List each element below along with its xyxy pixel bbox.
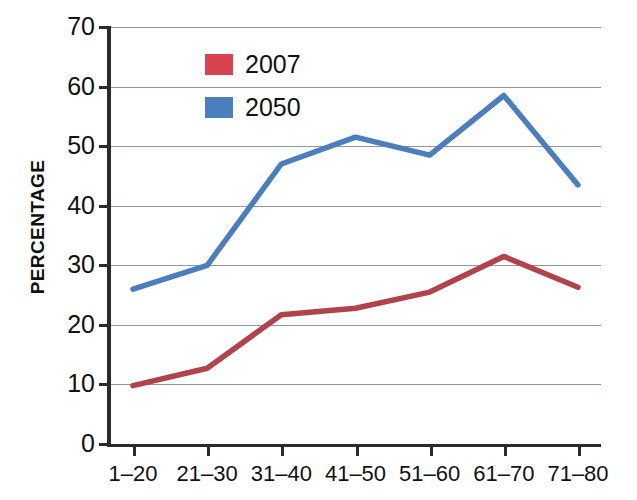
- legend-item-2050: 2050: [205, 89, 301, 125]
- series-line-2007: [133, 256, 578, 385]
- legend-swatch-2007: [205, 54, 233, 75]
- legend-item-2007: 2007: [205, 39, 301, 89]
- series-lines: [0, 0, 637, 500]
- legend-label: 2007: [245, 52, 301, 77]
- chart-legend: 20072050: [205, 39, 301, 125]
- legend-swatch-2050: [205, 97, 233, 118]
- legend-label: 2050: [245, 95, 301, 120]
- line-chart: PERCENTAGE 010203040506070 1–2021–3031–4…: [0, 0, 637, 500]
